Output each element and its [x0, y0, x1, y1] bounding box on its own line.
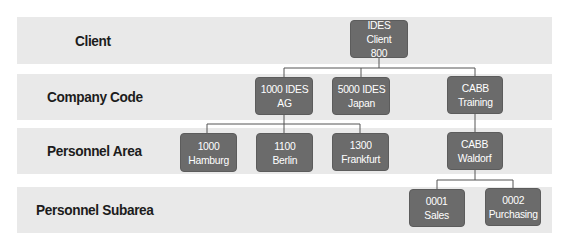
- node-ides-client-800[interactable]: IDES Client800: [350, 20, 408, 58]
- node-personnel-subarea-0001-sales[interactable]: 0001Sales: [409, 189, 465, 227]
- node-line2: Berlin: [272, 153, 297, 167]
- node-line2: Hamburg: [188, 153, 229, 167]
- node-company-code-1000-ides-ag[interactable]: 1000 IDESAG: [255, 77, 313, 115]
- node-line2: Japan: [337, 96, 385, 110]
- node-line1: 1000 IDES: [260, 82, 308, 96]
- node-line2: 800: [354, 46, 404, 60]
- node-line2: Purchasing: [488, 207, 537, 221]
- node-line2: Sales: [425, 208, 450, 222]
- node-line1: IDES Client: [354, 18, 404, 46]
- node-line2: AG: [260, 96, 308, 110]
- node-line1: 1100: [272, 139, 297, 153]
- node-line1: 1300: [341, 138, 380, 152]
- node-personnel-area-cabb-waldorf[interactable]: CABBWaldorf: [447, 132, 503, 170]
- node-personnel-area-1300-frankfurt[interactable]: 1300Frankfurt: [332, 133, 389, 171]
- node-line1: 0002: [488, 193, 537, 207]
- node-line2: Waldorf: [458, 151, 491, 165]
- node-personnel-subarea-0002-purchasing[interactable]: 0002Purchasing: [485, 188, 541, 226]
- node-line1: 0001: [425, 194, 450, 208]
- node-line2: Frankfurt: [341, 152, 380, 166]
- node-line1: CABB: [458, 137, 491, 151]
- node-line1: 5000 IDES: [337, 82, 385, 96]
- node-line1: 1000: [188, 139, 229, 153]
- node-company-code-cabb-training[interactable]: CABBTraining: [447, 76, 503, 114]
- node-line1: CABB: [458, 81, 493, 95]
- node-line2: Training: [458, 95, 493, 109]
- node-personnel-area-1000-hamburg[interactable]: 1000Hamburg: [180, 133, 237, 172]
- node-company-code-5000-ides-japan[interactable]: 5000 IDESJapan: [332, 77, 390, 115]
- node-personnel-area-1100-berlin[interactable]: 1100Berlin: [256, 133, 313, 172]
